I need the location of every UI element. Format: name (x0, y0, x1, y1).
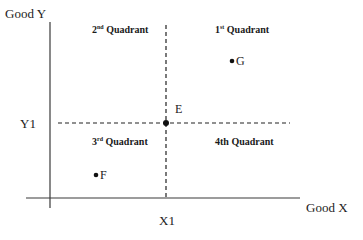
point-e-label: E (175, 103, 182, 115)
x1-label: X1 (159, 214, 175, 227)
quadrant-1-suffix: st (220, 24, 224, 30)
y-axis-label: Good Y (5, 7, 46, 20)
x-axis-label: Good X (306, 201, 348, 214)
quadrant-4-label: 4th Quadrant (215, 137, 274, 147)
quadrant-3-label: 3rd Quadrant (92, 137, 148, 147)
y1-label: Y1 (20, 117, 36, 130)
point-f-label: F (100, 169, 107, 181)
quadrant-3-text: Quadrant (106, 136, 148, 147)
quadrant-2-label: 2nd Quadrant (92, 25, 148, 35)
point-e-marker (163, 120, 169, 126)
quadrant-2-suffix: nd (97, 24, 104, 30)
quadrant-3-suffix: rd (97, 136, 103, 142)
quadrant-2-text: Quadrant (106, 24, 148, 35)
point-g-label: G (236, 55, 245, 67)
quadrant-diagram: Good Y Good X Y1 X1 2nd Quadrant 1st Qua… (0, 0, 363, 240)
point-g-marker (230, 59, 235, 64)
quadrant-1-label: 1st Quadrant (215, 25, 269, 35)
quadrant-4-number: 4th (215, 136, 229, 147)
point-f-marker (94, 173, 99, 178)
quadrant-4-text: Quadrant (231, 136, 273, 147)
quadrant-1-text: Quadrant (227, 24, 269, 35)
